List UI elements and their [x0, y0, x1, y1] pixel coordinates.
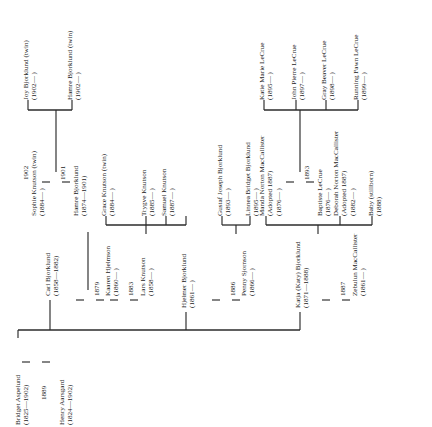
person-samuel-knutson: Samuel Knutson (1887— ) — [160, 169, 177, 216]
person-name: Carl Bjorklund — [44, 253, 52, 296]
person-gray-beaver-lecrue: Gray Beaver LeCrue (1898— ) — [320, 41, 337, 100]
person-dates: (1866— ) — [248, 251, 256, 296]
person-name: Trygve Knutson — [140, 170, 148, 216]
person-name: Hamre Bjorklund — [72, 166, 80, 216]
marriage-year-g1: 1889 — [40, 386, 48, 400]
person-trygve-knutson: Trygve Knutson (1885— ) — [140, 170, 157, 216]
person-deborah-norton-maccallister: Deborah Norton MacCallister (Adopted 188… — [332, 131, 357, 216]
person-adopted-note: (Adopted 1887) — [340, 131, 348, 216]
person-name: Baptiste LeCrue — [316, 169, 324, 216]
person-dates: (1874—1901) — [80, 166, 88, 216]
person-dates: (1884— ) — [108, 154, 116, 216]
person-henry-aarsgard: Henry Aarsgard (1824—1902) — [58, 380, 75, 425]
person-name: Kaaren Hjelmson — [104, 246, 112, 296]
person-joy-bjorklund: Joy Bjorklund (twin) (1902— ) — [22, 40, 39, 100]
person-name: Manda Norton MacCallister — [258, 136, 266, 216]
person-grace-knutson: Grace Knutson (twin) (1884— ) — [100, 154, 117, 216]
person-dates: (1899— ) — [360, 35, 368, 100]
person-name: John Pierre LeCrue — [290, 44, 298, 100]
person-dates: (1861— ) — [188, 254, 196, 308]
person-dates: (1824—1902) — [66, 380, 74, 425]
person-bridget-aspelund: Bridget Aspelund (1825—1902) — [14, 375, 31, 425]
person-dates: (1897— ) — [298, 44, 306, 100]
person-hjelmer-bjorklund: Hjelmer Bjorklund (1861— ) — [180, 254, 197, 308]
person-dates: (1884— ) — [38, 151, 46, 216]
person-baptiste-lecrue: Baptiste LeCrue (1876— ) — [316, 169, 333, 216]
person-dates: (1858— ) — [147, 257, 155, 296]
person-penny-sjornson: Penny Sjornson (1866— ) — [240, 251, 257, 296]
person-name: Samuel Knutson — [160, 169, 168, 216]
marriage-year-g4: 1902 — [22, 166, 30, 180]
marriage-year-hjelmer-penny: 1886 — [229, 282, 237, 296]
person-carl-bjorklund: Carl Bjorklund (1858—1882) — [44, 253, 61, 296]
person-dates: (1882— ) — [349, 131, 357, 216]
person-name: Lars Knutson — [139, 257, 147, 296]
marriage-year-sophie-hamre: 1901 — [59, 166, 67, 180]
person-name: Sophie Knutson (twin) — [30, 151, 38, 216]
person-dates: (1885— ) — [148, 170, 156, 216]
person-name: Grace Knutson (twin) — [100, 154, 108, 216]
person-john-pierre-lecrue: John Pierre LeCrue (1897— ) — [290, 44, 307, 100]
person-adopted-note: (Adopted 1887) — [266, 136, 274, 216]
person-dates: (1825—1902) — [22, 375, 30, 425]
person-gustaf-joseph-bjorklund: Gustaf Joseph Bjorklund (1893— ) — [216, 145, 233, 216]
person-name: Hamre Bjorklund (twin) — [66, 31, 74, 100]
person-baby-stillborn: Baby (stillborn) (1888) — [367, 171, 384, 216]
marriage-year-kaaren-lars: 1883 — [127, 282, 135, 296]
person-dates: (1898— ) — [328, 41, 336, 100]
marriage-year-carl-kaaren: 1879 — [93, 282, 101, 296]
person-name: Gray Beaver LeCrue — [320, 41, 328, 100]
person-name: Joy Bjorklund (twin) — [22, 40, 30, 100]
person-dates: (1876— ) — [275, 136, 283, 216]
person-name: Bridget Aspelund — [14, 375, 22, 425]
person-kaaren-hjelmson: Kaaren Hjelmson (1860— ) — [104, 246, 121, 296]
marriage-year-manda-baptiste: 1893 — [303, 166, 311, 180]
person-katie-marie-lecrue: Katie Marie LeCrue (1895— ) — [258, 43, 275, 100]
person-dates: (1861— ) — [359, 234, 367, 296]
person-name: Baby (stillborn) — [367, 171, 375, 216]
person-dates: (1887— ) — [168, 169, 176, 216]
person-lars-knutson: Lars Knutson (1858— ) — [139, 257, 156, 296]
person-dates: (1893— ) — [224, 145, 232, 216]
marriage-year-katja-zebulun: 1887 — [339, 282, 347, 296]
person-name: Running Fawn LeCrue — [352, 35, 360, 100]
person-hamre-bjorklund-1902: Hamre Bjorklund (twin) (1902— ) — [66, 31, 83, 100]
person-name: Katja (Katy) Bjorklund — [294, 241, 302, 308]
person-name: Zebulun MacCallister — [351, 234, 359, 296]
person-dates: (1871—1888) — [302, 241, 310, 308]
person-sophie-knutson: Sophie Knutson (twin) (1884— ) — [30, 151, 47, 216]
person-manda-norton-maccallister: Manda Norton MacCallister (Adopted 1887)… — [258, 136, 283, 216]
person-katja-bjorklund: Katja (Katy) Bjorklund (1871—1888) — [294, 241, 311, 308]
person-dates: (1888) — [375, 171, 383, 216]
person-name: Penny Sjornson — [240, 251, 248, 296]
person-running-fawn-lecrue: Running Fawn LeCrue (1899— ) — [352, 35, 369, 100]
person-name: Gustaf Joseph Bjorklund — [216, 145, 224, 216]
person-dates: (1895— ) — [266, 43, 274, 100]
person-dates: (1860— ) — [112, 246, 120, 296]
person-hamre-bjorklund-1874: Hamre Bjorklund (1874—1901) — [72, 166, 89, 216]
person-name: Katie Marie LeCrue — [258, 43, 266, 100]
person-name: Linnea Bridget Bjorklund — [244, 142, 252, 216]
person-name: Henry Aarsgard — [58, 380, 66, 425]
person-dates: (1902— ) — [74, 31, 82, 100]
person-zebulun-maccallister: Zebulun MacCallister (1861— ) — [351, 234, 368, 296]
person-name: Deborah Norton MacCallister — [332, 131, 340, 216]
person-name: Hjelmer Bjorklund — [180, 254, 188, 308]
person-dates: (1902— ) — [30, 40, 38, 100]
person-dates: (1858—1882) — [52, 253, 60, 296]
